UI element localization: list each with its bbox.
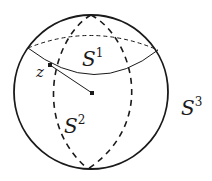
point-z xyxy=(48,63,52,67)
s2-right-arc xyxy=(88,15,132,169)
label-s2: S2 xyxy=(64,113,85,138)
s2-left-arc xyxy=(53,15,91,169)
label-s1: S1 xyxy=(82,46,103,71)
label-z: z xyxy=(35,63,44,81)
center-point xyxy=(90,91,94,95)
sphere-diagram: z S1 S2 S3 xyxy=(0,0,212,181)
label-s3: S3 xyxy=(181,95,202,120)
